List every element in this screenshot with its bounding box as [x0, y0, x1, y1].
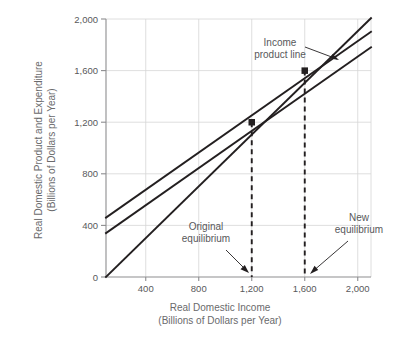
- new-equilibrium-point: [302, 67, 309, 74]
- xtick-label-1200: 1,200: [240, 283, 264, 294]
- ytick-label-0: 0: [93, 272, 98, 283]
- x-axis-ticks: [146, 277, 358, 281]
- ytick-label-800: 800: [82, 168, 98, 179]
- x-axis-title-line2: (Billions of Dollars per Year): [158, 315, 281, 326]
- income-product-line-label-line2: product line: [254, 49, 306, 60]
- ytick-label-400: 400: [82, 220, 98, 231]
- xtick-label-1600: 1,600: [293, 283, 317, 294]
- x-axis-title-line1: Real Domestic Income: [170, 302, 271, 313]
- ytick-label-1600: 1,600: [74, 65, 98, 76]
- y-axis-ticks: [101, 19, 106, 277]
- y-axis-title-line1: Real Domestic Product and Expenditure: [33, 61, 44, 239]
- new-equilibrium-label-line2: equilibrium: [335, 224, 383, 235]
- income-product-line-label-line1: Income: [264, 37, 297, 48]
- original-equilibrium-label-line2: equilibrium: [182, 233, 230, 244]
- y-axis-title-line2: (Billions of Dollars per Year): [46, 88, 57, 211]
- new-equilibrium-label-line1: New: [349, 212, 370, 223]
- xtick-label-400: 400: [138, 283, 154, 294]
- xtick-label-2000: 2,000: [346, 283, 370, 294]
- original-equilibrium-point: [249, 119, 256, 126]
- ytick-label-2000: 2,000: [74, 14, 98, 25]
- chart-figure: 2,000 1,600 1,200 800 400 0 400 800 1,20…: [0, 0, 399, 343]
- xtick-label-800: 800: [191, 283, 207, 294]
- ytick-label-1200: 1,200: [74, 117, 98, 128]
- income-expenditure-chart: 2,000 1,600 1,200 800 400 0 400 800 1,20…: [0, 0, 399, 343]
- original-equilibrium-label-line1: Original: [189, 221, 223, 232]
